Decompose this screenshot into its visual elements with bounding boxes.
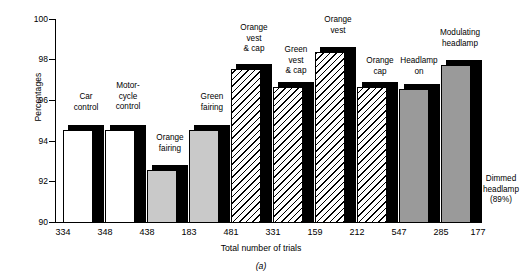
- bar-face: [273, 87, 303, 223]
- bar-face: [63, 130, 93, 223]
- bar-group-headlamp-on[interactable]: Headlamp on: [399, 19, 435, 223]
- bar-green-vest-and-cap[interactable]: [273, 82, 309, 223]
- y-tick-label-96: 96: [18, 96, 48, 105]
- bar-group-green-fairing[interactable]: Green fairing: [189, 19, 225, 223]
- x-tick-label-331: 331: [250, 228, 296, 237]
- bar-group-car-control[interactable]: Car control: [63, 19, 99, 223]
- bar-face: [189, 130, 219, 223]
- y-tick-label-92: 92: [18, 177, 48, 186]
- x-tick-label-177: 177: [455, 228, 501, 237]
- bar-group-orange-cap[interactable]: Orange cap: [357, 19, 393, 223]
- x-tick-label-547: 547: [376, 228, 422, 237]
- bar-face: [315, 52, 345, 223]
- bar-face: [399, 89, 429, 223]
- bar-caption-line: Headlamp: [389, 56, 449, 67]
- bar-caption-line: on: [389, 67, 449, 78]
- bar-group-green-vest-and-cap[interactable]: Green vest & cap: [273, 19, 309, 223]
- y-tick-label-94: 94: [18, 137, 48, 146]
- plot-area: Car control Motor- cycle control Ora: [55, 19, 467, 223]
- x-tick-label-183: 183: [166, 228, 212, 237]
- y-tick-label-90: 90: [18, 218, 48, 227]
- bar-green-fairing[interactable]: [189, 125, 225, 223]
- bar-face: [105, 130, 135, 223]
- bar-orange-vest-and-cap[interactable]: [231, 64, 267, 223]
- bar-caption-line: (89%): [470, 195, 524, 206]
- x-tick-label-438: 438: [124, 228, 170, 237]
- bar-caption-headlamp-on: Headlamp on: [389, 56, 449, 77]
- y-tick-label-98: 98: [18, 55, 48, 64]
- x-tick-label-481: 481: [208, 228, 254, 237]
- panel-letter: (a): [55, 261, 467, 271]
- bar-face: [147, 170, 177, 223]
- y-tick-label-100: 100: [18, 15, 48, 24]
- bar-group-motorcycle-control[interactable]: Motor- cycle control: [105, 19, 141, 223]
- bar-headlamp-on[interactable]: [399, 84, 435, 223]
- x-tick-label-348: 348: [82, 228, 128, 237]
- bar-motorcycle-control[interactable]: [105, 125, 141, 223]
- bar-orange-fairing[interactable]: [147, 165, 183, 223]
- bar-caption-line: headlamp: [470, 185, 524, 196]
- bar-face: [231, 69, 261, 223]
- x-tick-label-212: 212: [334, 228, 380, 237]
- bar-group-orange-fairing[interactable]: Orange fairing: [147, 19, 183, 223]
- bar-face: [357, 87, 387, 223]
- x-tick-label-159: 159: [292, 228, 338, 237]
- bar-group-dimmed-headlamp[interactable]: Dimmed headlamp (89%): [483, 19, 519, 223]
- bar-car-control[interactable]: [63, 125, 99, 223]
- bar-orange-vest[interactable]: [315, 47, 351, 223]
- x-tick-label-334: 334: [40, 228, 86, 237]
- bar-caption-line: Dimmed: [470, 174, 524, 185]
- x-axis-label: Total number of trials: [55, 243, 467, 253]
- bar-group-orange-vest-and-cap[interactable]: Orange vest & cap: [231, 19, 267, 223]
- dimmed-headlamp-offscale-note: Dimmed headlamp (89%): [470, 174, 524, 206]
- bar-face: [441, 65, 471, 223]
- bar-group-orange-vest[interactable]: Orange vest: [315, 19, 351, 223]
- bar-orange-cap[interactable]: [357, 82, 393, 223]
